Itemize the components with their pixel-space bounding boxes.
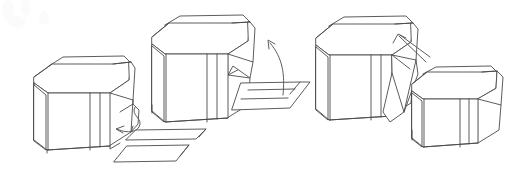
illustration-canvas [0,0,527,177]
background-smudge [2,0,49,28]
tray-lower-left-a [126,129,206,140]
line-drawing-svg [0,0,527,177]
stage-3-carton [316,16,418,122]
stage-1-carton [34,56,139,153]
tray-lower-left-b [114,145,189,162]
stage-4-carton [412,66,503,147]
tray-center [232,82,310,110]
